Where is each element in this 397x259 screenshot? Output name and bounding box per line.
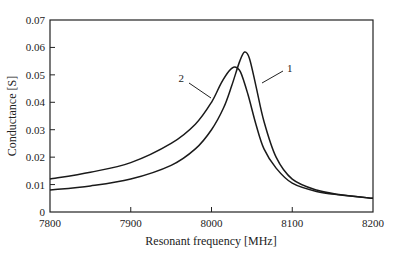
x-axis-label: Resonant frequency [MHz] (145, 234, 276, 248)
x-axis-ticks: 78007900800081008200 (39, 207, 385, 229)
curve-series-2 (50, 67, 373, 198)
y-tick-label: 0.07 (26, 14, 46, 26)
y-tick-label: 0.01 (26, 179, 45, 191)
annotation-leader-2 (189, 83, 211, 98)
y-tick-label: 0.02 (26, 151, 45, 163)
x-tick-label: 7900 (120, 217, 143, 229)
curve-series-1 (50, 52, 373, 198)
x-tick-label: 7800 (39, 217, 62, 229)
y-tick-label: 0.06 (26, 41, 46, 53)
curve-label-1: 1 (287, 62, 293, 74)
y-axis-label: Conductance [S] (5, 76, 19, 156)
curve-label-2: 2 (179, 72, 185, 84)
plot-frame (50, 20, 373, 212)
y-axis-ticks: 00.010.020.030.040.050.060.07 (26, 14, 55, 218)
chart: 00.010.020.030.040.050.060.07 7800790080… (0, 0, 397, 259)
y-tick-label: 0.04 (26, 96, 46, 108)
y-tick-label: 0.03 (26, 124, 46, 136)
annotation-leader-1 (262, 71, 283, 83)
x-tick-label: 8000 (201, 217, 224, 229)
y-tick-label: 0.05 (26, 69, 46, 81)
x-tick-label: 8100 (281, 217, 304, 229)
x-tick-label: 8200 (362, 217, 385, 229)
curves (50, 52, 373, 198)
plot-area-border (50, 20, 373, 212)
